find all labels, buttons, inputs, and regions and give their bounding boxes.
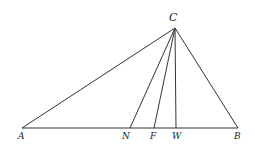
label-c: C: [169, 11, 178, 24]
label-w: W: [172, 131, 182, 141]
triangle-diagram: C A N F W B: [0, 0, 255, 150]
segment-cf: [154, 28, 175, 128]
segment-cw: [175, 28, 176, 128]
segment-cb: [175, 28, 238, 128]
label-a: A: [17, 131, 25, 141]
label-f: F: [149, 131, 157, 141]
label-b: B: [233, 131, 241, 141]
label-n: N: [121, 131, 131, 141]
